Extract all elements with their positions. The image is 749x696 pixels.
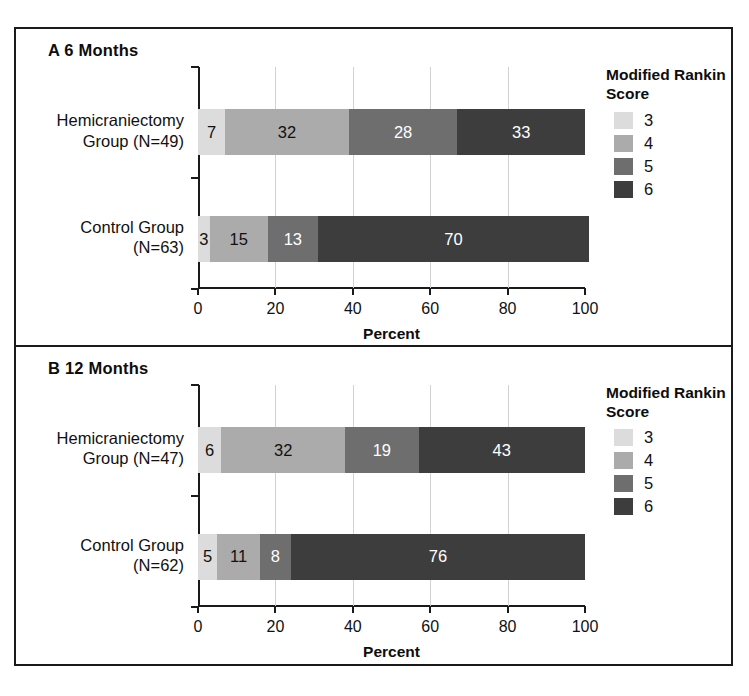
legend-item-score-5[interactable]: 5	[606, 155, 732, 177]
bar-segment-value: 19	[373, 442, 391, 459]
bar-segment-value: 28	[394, 124, 412, 141]
panel-b-legend: Modified Rankin Score 3456	[606, 383, 732, 518]
panel-a: A 6 Months 020406080100Percent7322833Hem…	[16, 29, 731, 347]
bar-segment-score-3: 3	[198, 216, 210, 262]
x-axis-tick-label: 60	[421, 618, 439, 636]
x-axis-tick	[429, 606, 431, 613]
panel-a-plot: 020406080100Percent7322833Hemicraniectom…	[198, 67, 585, 289]
x-axis-tick-label: 20	[266, 300, 284, 318]
category-label: Control Group(N=63)	[8, 217, 184, 257]
bar-segment-score-3: 5	[198, 534, 217, 580]
bar-segment-score-4: 32	[225, 109, 349, 155]
bar-segment-value: 33	[512, 124, 530, 141]
category-label-line2: (N=62)	[8, 555, 184, 575]
y-axis-tick	[191, 288, 199, 290]
bar-segment-value: 43	[493, 442, 511, 459]
category-label: Control Group(N=62)	[8, 535, 184, 575]
legend-title: Modified Rankin Score	[606, 65, 732, 103]
panel-a-legend: Modified Rankin Score 3456	[606, 65, 732, 200]
category-label-line1: Hemicraniectomy	[8, 428, 184, 448]
bar-segment-score-6: 43	[419, 427, 585, 473]
x-axis-tick-label: 60	[421, 300, 439, 318]
bar-segment-value: 8	[271, 548, 280, 565]
legend-label: 5	[644, 474, 653, 493]
legend-label: 5	[644, 157, 653, 176]
bar-segment-score-6: 33	[457, 109, 585, 155]
bar-segment-score-6: 70	[318, 216, 589, 262]
x-axis-tick	[352, 606, 354, 613]
y-axis-tick	[191, 384, 199, 386]
legend-items: 3456	[606, 427, 732, 518]
x-axis-title: Percent	[198, 643, 585, 661]
legend-swatch	[614, 135, 633, 152]
bar-segment-score-4: 15	[210, 216, 268, 262]
x-axis-line	[198, 287, 585, 289]
x-axis-tick	[274, 606, 276, 613]
legend-item-score-6[interactable]: 6	[606, 178, 732, 200]
bar-segment-score-3: 6	[198, 427, 221, 473]
legend-label: 6	[644, 497, 653, 516]
x-axis-tick-label: 80	[499, 618, 517, 636]
bar-segment-score-5: 28	[349, 109, 457, 155]
legend-swatch	[614, 181, 633, 198]
bar-segment-score-5: 8	[260, 534, 291, 580]
x-axis-tick	[274, 288, 276, 295]
category-label-line2: Group (N=49)	[8, 131, 184, 151]
legend-item-score-3[interactable]: 3	[606, 427, 732, 449]
x-axis-tick	[584, 288, 586, 295]
category-label-line1: Hemicraniectomy	[8, 110, 184, 130]
legend-item-score-4[interactable]: 4	[606, 450, 732, 472]
x-axis-tick-label: 0	[194, 300, 203, 318]
bar-segment-score-6: 76	[291, 534, 585, 580]
legend-swatch	[614, 112, 633, 129]
bar-segment-value: 70	[444, 231, 462, 248]
bar-segment-value: 3	[199, 231, 208, 248]
legend-label: 4	[644, 134, 653, 153]
legend-items: 3456	[606, 109, 732, 200]
legend-label: 3	[644, 428, 653, 447]
x-axis-tick-label: 80	[499, 300, 517, 318]
legend-item-score-6[interactable]: 6	[606, 496, 732, 518]
legend-title: Modified Rankin Score	[606, 383, 732, 421]
bar-segment-score-4: 32	[221, 427, 345, 473]
legend-label: 4	[644, 451, 653, 470]
stacked-bar: 7322833HemicraniectomyGroup (N=49)	[198, 109, 585, 155]
bar-segment-value: 5	[203, 548, 212, 565]
stacked-bar: 6321943HemicraniectomyGroup (N=47)	[198, 427, 585, 473]
x-axis-tick	[429, 288, 431, 295]
bar-segment-value: 7	[207, 124, 216, 141]
bar-segment-value: 6	[205, 442, 214, 459]
stacked-bar: 3151370Control Group(N=63)	[198, 216, 585, 262]
legend-swatch	[614, 475, 633, 492]
bar-segment-value: 15	[229, 231, 247, 248]
x-axis-tick	[507, 288, 509, 295]
x-axis-tick	[507, 606, 509, 613]
y-axis-tick	[191, 495, 199, 497]
x-axis-tick-label: 40	[344, 300, 362, 318]
y-axis-tick	[191, 66, 199, 68]
panel-a-title: A 6 Months	[48, 41, 138, 60]
x-axis-tick-label: 100	[572, 300, 599, 318]
x-axis-tick-label: 100	[572, 618, 599, 636]
x-axis-title: Percent	[198, 325, 585, 343]
legend-label: 3	[644, 111, 653, 130]
bar-segment-score-4: 11	[217, 534, 260, 580]
bar-segment-score-3: 7	[198, 109, 225, 155]
legend-item-score-5[interactable]: 5	[606, 473, 732, 495]
x-axis-tick	[352, 288, 354, 295]
legend-label: 6	[644, 180, 653, 199]
stacked-bar: 511876Control Group(N=62)	[198, 534, 585, 580]
legend-item-score-4[interactable]: 4	[606, 132, 732, 154]
panel-b-title: B 12 Months	[48, 359, 148, 378]
x-axis-tick-label: 0	[194, 618, 203, 636]
category-label-line1: Control Group	[8, 535, 184, 555]
y-axis-tick	[191, 177, 199, 179]
bar-segment-value: 13	[284, 231, 302, 248]
legend-item-score-3[interactable]: 3	[606, 109, 732, 131]
x-axis-tick-label: 40	[344, 618, 362, 636]
category-label-line2: Group (N=47)	[8, 448, 184, 468]
bar-segment-value: 32	[278, 124, 296, 141]
bar-segment-value: 32	[274, 442, 292, 459]
x-axis-tick	[584, 606, 586, 613]
legend-swatch	[614, 452, 633, 469]
